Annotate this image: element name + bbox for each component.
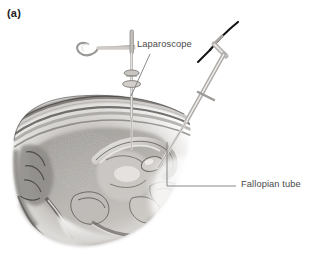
- figure-panel: (a): [0, 0, 317, 254]
- annotation-label-fallopian-tube: Fallopian tube: [241, 179, 301, 189]
- annotation-label-laparoscope: Laparoscope: [137, 39, 192, 49]
- pelvis-cross-section: [10, 95, 206, 248]
